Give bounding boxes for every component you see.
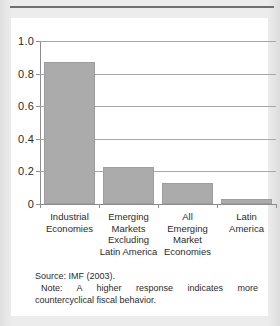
x-axis-tick <box>217 204 218 208</box>
x-axis-tick <box>158 204 159 208</box>
x-axis-category-label: Emerging Markets Excluding Latin America <box>99 211 158 257</box>
x-axis-category-label: Latin America <box>217 211 276 234</box>
x-axis-tick <box>276 204 277 208</box>
figure-caption: Source: IMF (2003). Note: A higher respo… <box>25 270 258 306</box>
y-axis-tick <box>36 171 40 172</box>
bar <box>44 62 95 204</box>
y-axis-label: 0 <box>28 198 34 210</box>
y-axis-tick <box>36 139 40 140</box>
y-axis-label: 0.4 <box>18 133 34 145</box>
plot-area: 00.20.40.60.81.0 <box>40 41 276 204</box>
y-axis-label: 0.8 <box>18 68 34 80</box>
note-line: Note: A higher response indicates more c… <box>35 282 258 306</box>
y-axis-label: 0.2 <box>18 165 34 177</box>
y-axis-label: 1.0 <box>18 35 34 47</box>
source-line: Source: IMF (2003). <box>35 270 258 282</box>
bar <box>162 183 213 204</box>
figure-card: 00.20.40.60.81.0 Source: IMF (2003). Not… <box>11 18 268 316</box>
bar <box>103 167 154 204</box>
x-axis-tick <box>40 204 41 208</box>
y-axis-tick <box>36 106 40 107</box>
gridline <box>40 41 276 42</box>
y-axis-tick <box>36 41 40 42</box>
x-axis-category-label: Industrial Economies <box>40 211 99 234</box>
x-axis-category-label: All Emerging Market Economies <box>158 211 217 257</box>
top-horizontal-rule <box>10 6 274 8</box>
x-axis-tick <box>99 204 100 208</box>
bar <box>221 199 272 204</box>
y-axis-tick <box>36 74 40 75</box>
y-axis-label: 0.6 <box>18 100 34 112</box>
